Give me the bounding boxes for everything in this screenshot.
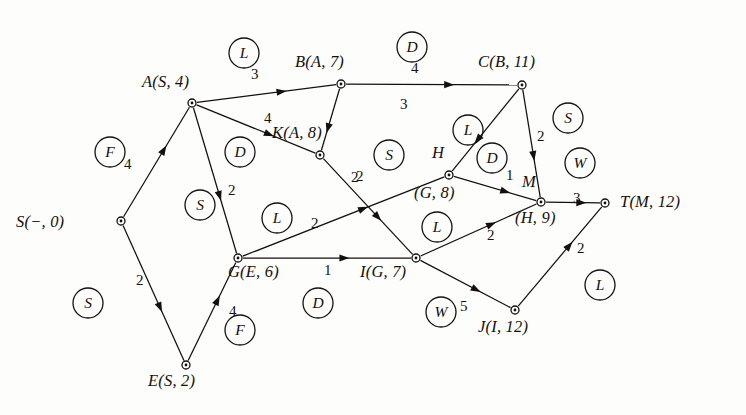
arrow-head-I-J	[470, 284, 481, 292]
edge-S-A	[124, 107, 190, 216]
marker-letter-l-11: L	[422, 219, 452, 235]
edge-A-G	[193, 108, 236, 253]
edge-weight-G-I: 1	[324, 262, 332, 279]
edge-weight-A-G: 2	[228, 182, 236, 199]
node-dot-center-E	[185, 364, 188, 367]
node-label-B: B(A, 7)	[295, 52, 344, 72]
edge-S-E	[123, 226, 184, 361]
edge-weight-K-I: 2	[356, 168, 364, 185]
marker-letter-s-9: S	[185, 197, 215, 213]
edge-weight-M-T: 3	[573, 190, 581, 207]
node-dot-center-S	[120, 220, 123, 223]
edge-weight-J-T: 2	[577, 240, 585, 257]
node-dot-center-G	[237, 257, 240, 260]
edge-weight-C-H: 3	[400, 96, 408, 113]
node-dot-center-I	[415, 257, 418, 260]
node-dot-center-B	[340, 83, 343, 86]
edge-A-B	[197, 85, 336, 103]
node-label-T: T(M, 12)	[620, 192, 680, 212]
arrow-head-H-M	[500, 187, 511, 194]
node-label-I: I(G, 7)	[360, 262, 406, 282]
marker-letter-w-14: W	[426, 304, 456, 320]
marker-letter-l-0: L	[229, 45, 259, 61]
node-label-A: A(S, 4)	[142, 72, 189, 92]
marker-letter-d-7: D	[477, 150, 507, 166]
edge-B-C	[346, 84, 517, 85]
node-dot-center-K	[319, 154, 322, 157]
edge-weight-E-G: 4	[229, 303, 237, 320]
node-label-G: G(E, 6)	[228, 262, 279, 282]
arrow-head-E-G	[212, 296, 220, 307]
marker-letter-f-3: F	[95, 144, 125, 160]
marker-letter-s-6: S	[374, 147, 404, 163]
graph-figure: S(−, 0)A(S, 4)B(A, 7)C(B, 11)K(A, 8)H(G,…	[0, 0, 746, 415]
marker-letter-w-8: W	[565, 155, 595, 171]
edge-weight-C-M: 2	[537, 128, 545, 145]
marker-letter-s-12: S	[73, 295, 103, 311]
marker-letter-d-4: D	[225, 144, 255, 160]
node-label-K: K(A, 8)	[272, 123, 322, 143]
arrow-head-S-E	[155, 301, 162, 312]
node-dot-center-C	[521, 84, 524, 87]
node-label-J: J(I, 12)	[478, 317, 528, 337]
node-label-H2: (G, 8)	[414, 183, 455, 203]
node-dot-center-A	[191, 102, 194, 105]
edge-weight-I-M: 2	[487, 227, 495, 244]
arrow-head-G-I	[339, 254, 349, 261]
arrow-head-A-B	[276, 89, 286, 96]
node-label-C: C(B, 11)	[478, 52, 535, 72]
node-label-E: E(S, 2)	[148, 371, 195, 391]
edge-weight-S-A: 4	[124, 156, 132, 173]
edge-weight-G-H: 2	[311, 215, 319, 232]
edge-weight-S-E: 2	[136, 272, 144, 289]
node-label-H: H	[432, 143, 444, 163]
node-dot-center-H	[448, 174, 451, 177]
node-label-M: M	[522, 172, 536, 192]
node-dot-center-J	[514, 309, 517, 312]
edge-weight-I-J: 5	[460, 298, 468, 315]
arrow-head-A-G	[215, 190, 222, 201]
arrow-head-C-M	[529, 151, 536, 161]
node-dot-center-T	[604, 202, 607, 205]
marker-letter-l-10: L	[262, 210, 292, 226]
marker-letter-d-13: D	[303, 295, 333, 311]
marker-letter-l-5: L	[453, 122, 483, 138]
marker-letter-l-15: L	[585, 277, 615, 293]
arrow-head-B-K	[326, 122, 333, 133]
edge-weight-B-C: 4	[411, 60, 419, 77]
edge-B-K	[321, 89, 339, 150]
node-label-S: S(−, 0)	[16, 212, 64, 232]
node-label-M2: (H, 9)	[515, 208, 556, 228]
arrow-head-G-H	[357, 207, 368, 214]
arrow-head-S-A	[158, 146, 166, 156]
edge-weight-H-M: 1	[506, 167, 514, 184]
arrow-head-B-C	[444, 81, 454, 88]
node-dot-center-M	[540, 201, 543, 204]
marker-letter-s-2: S	[553, 110, 583, 126]
edge-weight-A-K: 4	[264, 110, 272, 127]
edge-weight-A-B: 3	[251, 66, 259, 83]
marker-letter-f-16: F	[225, 322, 255, 338]
marker-letter-d-1: D	[397, 39, 427, 55]
